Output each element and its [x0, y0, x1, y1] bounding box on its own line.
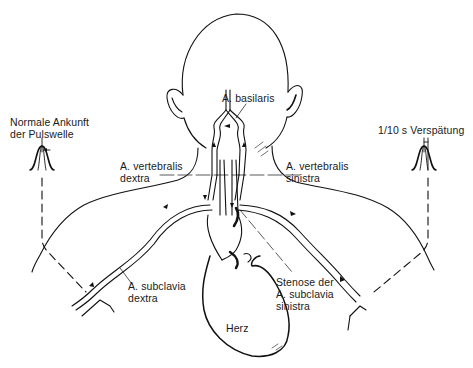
label-basilaris: A. basilaris: [222, 92, 275, 104]
label-vertebralis-dextra-2: dextra: [120, 172, 150, 184]
label-heart: Herz: [226, 322, 249, 334]
label-normal-arrival-2: der Pulswelle: [10, 128, 74, 140]
label-normal-arrival-1: Normale Ankunft: [10, 116, 89, 128]
pulse-connectors: [42, 178, 428, 292]
label-delay: 1/10 s Verspätung: [378, 124, 464, 136]
subclavian-steal-diagram: A. basilaris Normale Ankunft der Pulswel…: [0, 0, 473, 368]
arm-outlines: [82, 300, 366, 330]
label-subclavia-dextra-1: A. subclavia: [128, 280, 186, 292]
vertebral-arteries: [208, 90, 246, 215]
label-stenose-3: sinistra: [276, 300, 310, 312]
label-vertebralis-sinistra-2: sinistra: [286, 172, 320, 184]
anatomy-drawing: [0, 0, 473, 368]
neck-shoulders-outline: [32, 142, 434, 272]
pulse-wave-delayed-icon: [412, 138, 436, 170]
label-stenose-1: Stenose der: [276, 276, 334, 288]
label-stenose-2: A. subclavia: [276, 288, 334, 300]
head-outline: [167, 14, 302, 148]
label-subclavia-dextra-2: dextra: [128, 292, 158, 304]
pulse-wave-normal-icon: [30, 138, 54, 170]
label-vertebralis-dextra-1: A. vertebralis: [120, 160, 183, 172]
label-vertebralis-sinistra-1: A. vertebralis: [286, 160, 349, 172]
